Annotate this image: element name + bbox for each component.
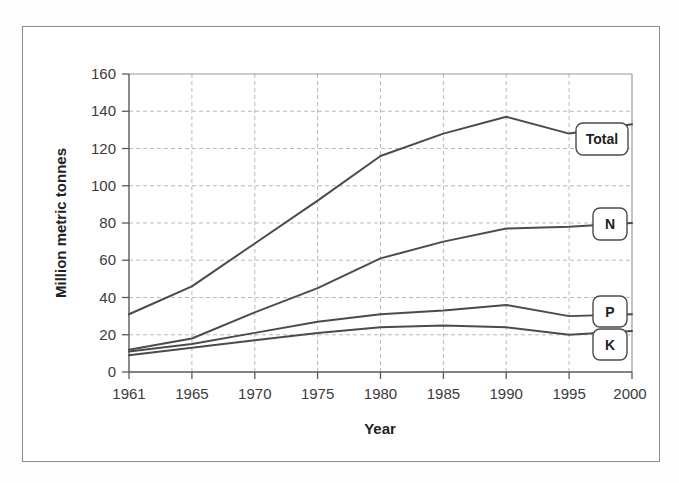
legend-total[interactable]: Total — [576, 123, 628, 155]
y-tick-label-20: 20 — [99, 326, 116, 343]
legend-n[interactable]: N — [593, 208, 627, 240]
x-tick-label-1985: 1985 — [427, 385, 460, 402]
x-tick-label-1961: 1961 — [112, 385, 145, 402]
x-tick-label-2000: 2000 — [613, 385, 646, 402]
x-tick-marks — [129, 372, 632, 379]
x-tick-label-1970: 1970 — [238, 385, 271, 402]
legend-k[interactable]: K — [593, 329, 627, 360]
y-axis-title: Million metric tonnes — [52, 148, 69, 298]
y-tick-label-0: 0 — [108, 363, 116, 380]
x-tick-label-1980: 1980 — [364, 385, 397, 402]
legend-p[interactable]: P — [593, 296, 627, 327]
line-chart: 160 140 120 100 80 60 40 20 0 1961 1965 … — [0, 0, 679, 483]
y-tick-label-120: 120 — [91, 140, 116, 157]
y-tick-label-140: 140 — [91, 102, 116, 119]
y-tick-label-100: 100 — [91, 177, 116, 194]
legend-label-total: Total — [586, 131, 618, 147]
x-axis-title: Year — [364, 420, 396, 437]
x-tick-label-1975: 1975 — [301, 385, 334, 402]
y-tick-label-80: 80 — [99, 214, 116, 231]
legend-label-n: N — [605, 216, 615, 232]
y-tick-label-160: 160 — [91, 65, 116, 82]
y-tick-labels: 160 140 120 100 80 60 40 20 0 — [91, 65, 116, 380]
x-tick-label-1965: 1965 — [175, 385, 208, 402]
legend-label-p: P — [605, 304, 614, 320]
x-tick-label-1990: 1990 — [490, 385, 523, 402]
x-tick-label-1995: 1995 — [552, 385, 585, 402]
y-tick-marks — [122, 74, 129, 372]
figure-root: 160 140 120 100 80 60 40 20 0 1961 1965 … — [0, 0, 679, 483]
legend-label-k: K — [605, 337, 615, 353]
y-tick-label-40: 40 — [99, 289, 116, 306]
x-tick-labels: 1961 1965 1970 1975 1980 1985 1990 1995 … — [112, 385, 646, 402]
y-tick-label-60: 60 — [99, 251, 116, 268]
